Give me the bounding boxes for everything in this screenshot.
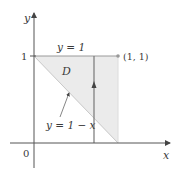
diagonal-label-leader — [60, 93, 69, 117]
origin-label: 0 — [23, 148, 29, 159]
y-tick-label: 1 — [21, 51, 27, 62]
top-boundary-label: y = 1 — [56, 41, 85, 53]
corner-point-label: (1, 1) — [123, 51, 149, 62]
x-axis-label: x — [163, 149, 170, 162]
diagonal-boundary-label: y = 1 − x — [45, 119, 96, 131]
corner-point — [116, 54, 120, 58]
region-label: D — [61, 65, 71, 78]
y-axis-label: y — [23, 12, 31, 25]
region-diagram: y x 1 0 y = 1 D (1, 1) y = 1 − x — [0, 0, 179, 177]
